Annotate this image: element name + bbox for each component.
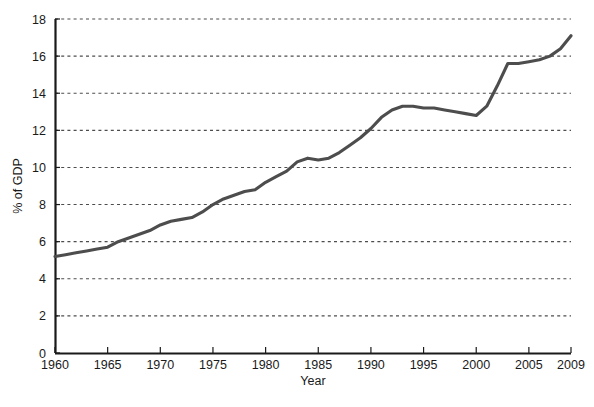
x-tick-label-2000: 2000 [462,358,490,372]
y-tick-label-12: 12 [32,124,46,138]
y-tick-label-8: 8 [39,198,46,212]
y-tick-label-18: 18 [32,13,46,27]
chart-background [0,0,594,407]
x-tick-label-1970: 1970 [146,358,174,372]
x-tick-label-1995: 1995 [410,358,438,372]
y-axis-title: % of GDP [11,158,25,214]
y-tick-label-4: 4 [39,272,46,286]
y-tick-label-0: 0 [39,347,46,361]
y-tick-label-2: 2 [39,309,46,323]
y-tick-label-14: 14 [32,87,46,101]
x-axis-title: Year [300,374,325,388]
x-tick-label-2005: 2005 [515,358,543,372]
y-tick-label-16: 16 [32,50,46,64]
x-tick-label-1980: 1980 [252,358,280,372]
y-tick-label-6: 6 [39,235,46,249]
y-tick-label-10: 10 [32,161,46,175]
x-tick-label-1965: 1965 [94,358,122,372]
x-tick-label-1975: 1975 [199,358,227,372]
x-tick-label-1985: 1985 [304,358,332,372]
chart-container: 1960196519701975198019851990199520002005… [0,0,594,407]
x-tick-label-1990: 1990 [357,358,385,372]
line-chart: 1960196519701975198019851990199520002005… [0,0,594,407]
x-tick-label-2009: 2009 [557,358,585,372]
